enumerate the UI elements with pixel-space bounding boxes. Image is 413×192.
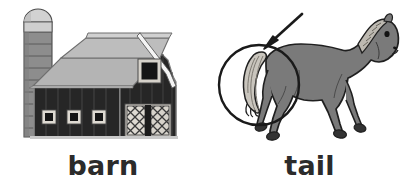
horse-illustration bbox=[206, 0, 413, 150]
flashcard-barn[interactable]: barn bbox=[0, 0, 206, 192]
barn-ground-windows bbox=[42, 110, 106, 124]
horse-ear bbox=[384, 14, 393, 22]
barn-doors[interactable] bbox=[125, 104, 171, 137]
barn-window-3 bbox=[92, 110, 106, 124]
hoof-2 bbox=[266, 131, 280, 142]
hoof-4 bbox=[353, 123, 367, 134]
barn-window-2 bbox=[67, 110, 81, 124]
barn-base bbox=[30, 136, 178, 139]
word-label-barn: barn bbox=[0, 146, 206, 186]
horse-eye bbox=[384, 31, 389, 37]
barn-hayloft-window bbox=[138, 59, 161, 83]
barn-window-1 bbox=[42, 110, 56, 124]
barn-illustration bbox=[0, 0, 206, 150]
flashcard-page: barn bbox=[0, 0, 413, 192]
word-label-tail: tail bbox=[206, 146, 413, 186]
flashcard-tail[interactable]: tail bbox=[206, 0, 413, 192]
hoof-3 bbox=[333, 129, 347, 139]
hoof-1 bbox=[254, 121, 268, 132]
